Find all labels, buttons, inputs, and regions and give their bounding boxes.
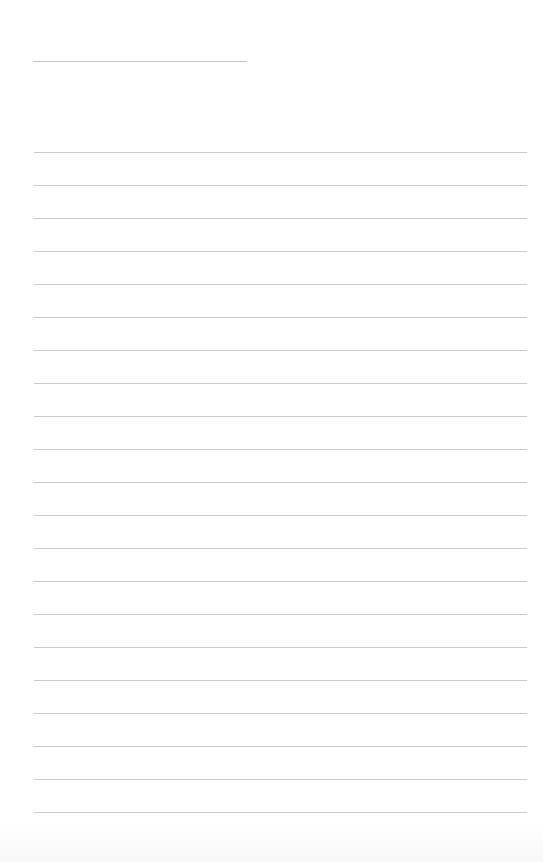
ruled-line[interactable] [34,251,527,252]
ruled-line[interactable] [34,515,527,516]
ruled-line[interactable] [34,680,527,681]
ruled-line[interactable] [34,284,527,285]
ruled-line[interactable] [34,746,527,747]
ruled-line[interactable] [34,713,527,714]
ruled-line[interactable] [34,779,527,780]
ruled-line[interactable] [34,548,527,549]
ruled-line[interactable] [34,416,527,417]
lined-paper-page [0,0,543,862]
ruled-line[interactable] [34,647,527,648]
ruled-line[interactable] [34,218,527,219]
ruled-line[interactable] [34,614,527,615]
ruled-line[interactable] [34,482,527,483]
ruled-line[interactable] [34,812,527,813]
ruled-line[interactable] [34,317,527,318]
ruled-line[interactable] [34,449,527,450]
ruled-line[interactable] [34,185,527,186]
ruled-line[interactable] [34,383,527,384]
page-bottom-edge [0,822,543,862]
ruled-line[interactable] [34,350,527,351]
ruled-line[interactable] [34,581,527,582]
title-line[interactable] [33,61,247,62]
ruled-line[interactable] [34,152,527,153]
